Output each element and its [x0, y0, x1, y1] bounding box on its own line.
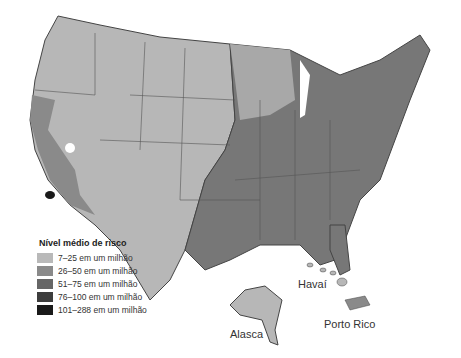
puerto-rico-shape	[345, 296, 370, 310]
legend-item: 51–75 em um milhão	[37, 277, 147, 290]
legend-item: 76–100 em um milhão	[37, 290, 147, 303]
legend-item: 7–25 em um milhão	[37, 251, 147, 264]
legend-swatch-3	[37, 279, 53, 289]
label-hawaii: Havaí	[298, 278, 327, 290]
legend-title: Nível médio de risco	[39, 238, 147, 248]
legend-swatch-1	[37, 253, 53, 263]
map-legend: Nível médio de risco 7–25 em um milhão 2…	[37, 238, 147, 316]
legend-swatch-2	[37, 266, 53, 276]
label-alaska: Alasca	[230, 328, 263, 340]
legend-swatch-4	[37, 292, 53, 302]
legend-swatch-5	[37, 305, 53, 315]
label-puerto-rico: Porto Rico	[324, 318, 375, 330]
legend-item: 26–50 em um milhão	[37, 264, 147, 277]
legend-item: 101–288 em um milhão	[37, 303, 147, 316]
